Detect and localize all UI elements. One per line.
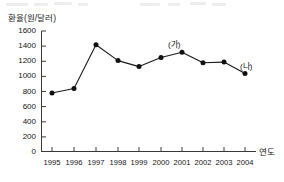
plot-area xyxy=(0,0,284,182)
chart-figure: 환율(원/달러) xyxy=(0,0,284,182)
data-point xyxy=(180,50,185,55)
x-tick-marks xyxy=(52,147,245,152)
data-point xyxy=(222,60,227,65)
data-point xyxy=(159,55,164,60)
data-point xyxy=(116,58,121,63)
data-point xyxy=(94,42,99,47)
data-markers xyxy=(50,42,248,95)
annotation-na: (나) xyxy=(240,62,252,71)
data-line xyxy=(52,45,245,93)
data-point xyxy=(201,60,206,65)
chart-svg xyxy=(0,0,284,182)
data-point xyxy=(243,71,248,76)
y-tick-marks xyxy=(42,31,47,137)
annotation-ga: (가) xyxy=(168,40,180,49)
data-point xyxy=(72,86,77,91)
data-point xyxy=(137,64,142,69)
data-point xyxy=(50,91,55,96)
